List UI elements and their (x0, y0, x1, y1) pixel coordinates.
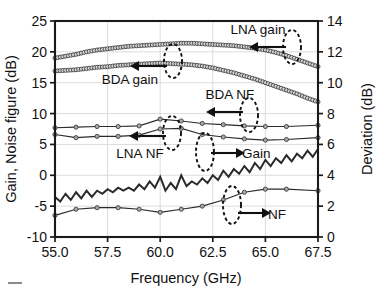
y-right-tick-label: 6 (327, 136, 335, 152)
y-right-tick-label: 14 (327, 13, 343, 29)
x-tick-label: 67.5 (304, 244, 331, 260)
y-right-tick-label: 12 (327, 44, 343, 60)
callout-ellipse-nf (223, 186, 241, 224)
y-right-tick-label: 4 (327, 167, 335, 183)
x-axis-title: Frequency (GHz) (130, 270, 241, 286)
y-left-tick-label: 0 (39, 167, 47, 183)
callout-ellipse-lna-nf (163, 116, 181, 150)
arrow-head-bda-nf (206, 107, 215, 117)
caption-divider (8, 282, 22, 284)
chart-figure: 55.057.560.062.565.067.5-10-505101520250… (0, 0, 385, 290)
y-right-tick-label: 10 (327, 75, 343, 91)
annotation-gain: Gain (196, 133, 271, 171)
data-curves (53, 41, 320, 217)
arrow-head-lna-gain (249, 42, 258, 52)
y-left-tick-label: 5 (39, 136, 47, 152)
x-tick-label: 55.0 (41, 244, 68, 260)
series-lna-nf (53, 126, 320, 142)
y-left-tick-label: 25 (31, 13, 47, 29)
annotation-label-bda-nf: BDA NF (206, 87, 255, 102)
y-left-tick-label: 10 (31, 106, 47, 122)
y-left-tick-label: 15 (31, 75, 47, 91)
x-tick-label: 57.5 (94, 244, 121, 260)
x-tick-label: 60.0 (147, 244, 174, 260)
annotation-label-gain: Gain (242, 146, 271, 161)
series-bda-nf (53, 117, 320, 130)
y-right-axis-title: Deviation (dB) (359, 83, 375, 175)
annotation-label-lna-gain: LNA gain (231, 22, 286, 37)
y-left-axis-title: Gain, Noise figure (dB) (3, 55, 19, 202)
annotation-nf: NF (223, 186, 286, 224)
y-right-tick-label: 8 (327, 106, 335, 122)
arrow-head-lna-nf (129, 131, 138, 141)
callout-ellipse-bda-nf (240, 98, 258, 132)
y-left-tick-label: -10 (27, 229, 47, 245)
y-right-tick-label: 0 (327, 229, 335, 245)
annotation-label-nf: NF (268, 207, 286, 222)
annotation-label-bda-gain: BDA gain (102, 72, 158, 87)
chart-canvas: 55.057.560.062.565.067.5-10-505101520250… (0, 0, 385, 290)
y-left-tick-label: 20 (31, 44, 47, 60)
callout-ellipse-bda-gain (164, 44, 182, 78)
annotation-label-lna-nf: LNA NF (116, 146, 163, 161)
x-tick-label: 62.5 (199, 244, 226, 260)
y-left-tick-label: -5 (35, 198, 48, 214)
x-tick-label: 65.0 (252, 244, 279, 260)
y-right-tick-label: 2 (327, 198, 335, 214)
